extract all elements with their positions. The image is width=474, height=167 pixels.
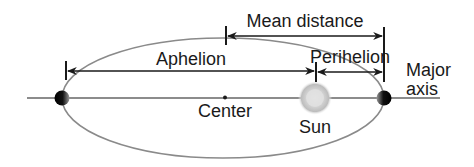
center-label: Center bbox=[198, 101, 252, 121]
orbit-diagram: Mean distance Aphelion Perihelion Major … bbox=[0, 0, 474, 167]
planet-aphelion-icon bbox=[55, 91, 70, 106]
aphelion-label: Aphelion bbox=[156, 49, 226, 69]
perihelion-label: Perihelion bbox=[310, 47, 390, 67]
major-axis-label-line1: Major bbox=[406, 60, 451, 80]
sun-label: Sun bbox=[299, 117, 331, 137]
sun-core bbox=[306, 89, 324, 107]
planet-perihelion-icon bbox=[377, 91, 392, 106]
center-point bbox=[223, 96, 227, 100]
orbit-diagram-svg: Mean distance Aphelion Perihelion Major … bbox=[0, 0, 474, 167]
mean-distance-label: Mean distance bbox=[246, 11, 363, 31]
major-axis-label-line2: axis bbox=[406, 79, 438, 99]
